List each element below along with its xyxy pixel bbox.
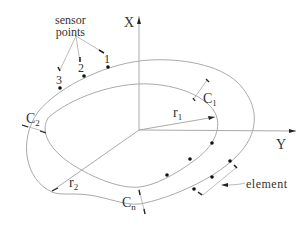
- y-axis: [139, 130, 296, 131]
- point-2-label: 2: [78, 62, 84, 74]
- point-3-label: 3: [56, 74, 62, 86]
- element-label: element: [246, 178, 287, 190]
- element-bracket: [200, 165, 237, 195]
- c2-label: C2: [26, 112, 40, 126]
- sensor-points-label: sensor points: [55, 14, 86, 38]
- r2-label: r2: [69, 176, 78, 190]
- z-axis: [52, 130, 139, 191]
- diagram-graphics: [0, 0, 307, 231]
- diagram-canvas: sensor points 1 2 3 X Y C1 C2 Cn r1 r2 e…: [0, 0, 307, 231]
- y-axis-label: Y: [276, 138, 286, 152]
- point-1-label: 1: [104, 53, 110, 65]
- cn-label: Cn: [122, 196, 136, 210]
- c1-label: C1: [203, 92, 217, 106]
- r1-label: r1: [173, 106, 182, 120]
- x-axis-label: X: [124, 16, 134, 30]
